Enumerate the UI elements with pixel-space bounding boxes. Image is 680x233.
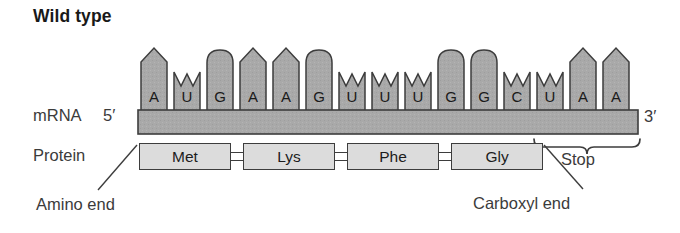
mrna-base-g-2 [207, 50, 233, 112]
amino-end-leader-line [98, 145, 137, 190]
mrna-base-a-0 [141, 48, 167, 112]
five-prime-label: 5′ [103, 106, 115, 125]
mrna-base-g-9 [438, 50, 464, 112]
peptide-bond-connector [335, 152, 347, 161]
stop-label: Stop [561, 150, 595, 169]
mrna-base-u-7 [372, 72, 398, 112]
mrna-base-u-6 [339, 72, 365, 112]
mrna-base-a-13 [570, 48, 596, 112]
wild-type-translation-figure: Wild type mRNA 5′ 3′ Protein AUGAAGUUUGG… [0, 0, 680, 233]
mrna-base-c-11 [504, 72, 530, 112]
amino-end-label: Amino end [36, 195, 115, 214]
mrna-row-label: mRNA [33, 106, 82, 125]
mrna-base-u-12 [537, 72, 563, 112]
amino-acid-box: Phe [347, 143, 439, 170]
mrna-backbone [138, 110, 638, 134]
three-prime-label: 3′ [644, 107, 656, 126]
mrna-base-u-8 [405, 72, 431, 112]
mrna-base-a-4 [273, 48, 299, 112]
mrna-base-shapes [141, 48, 629, 112]
mrna-base-a-3 [240, 48, 266, 112]
amino-acid-box: Gly [451, 143, 543, 170]
carboxyl-end-label: Carboxyl end [473, 194, 570, 213]
protein-row-label: Protein [33, 146, 85, 165]
peptide-bond-connector [439, 152, 451, 161]
peptide-bond-connector [231, 152, 243, 161]
amino-acid-box: Met [139, 143, 231, 170]
mrna-base-u-1 [174, 72, 200, 112]
mrna-base-g-5 [306, 50, 332, 112]
mrna-base-a-14 [603, 48, 629, 112]
mrna-base-g-10 [471, 50, 497, 112]
amino-acid-box: Lys [243, 143, 335, 170]
